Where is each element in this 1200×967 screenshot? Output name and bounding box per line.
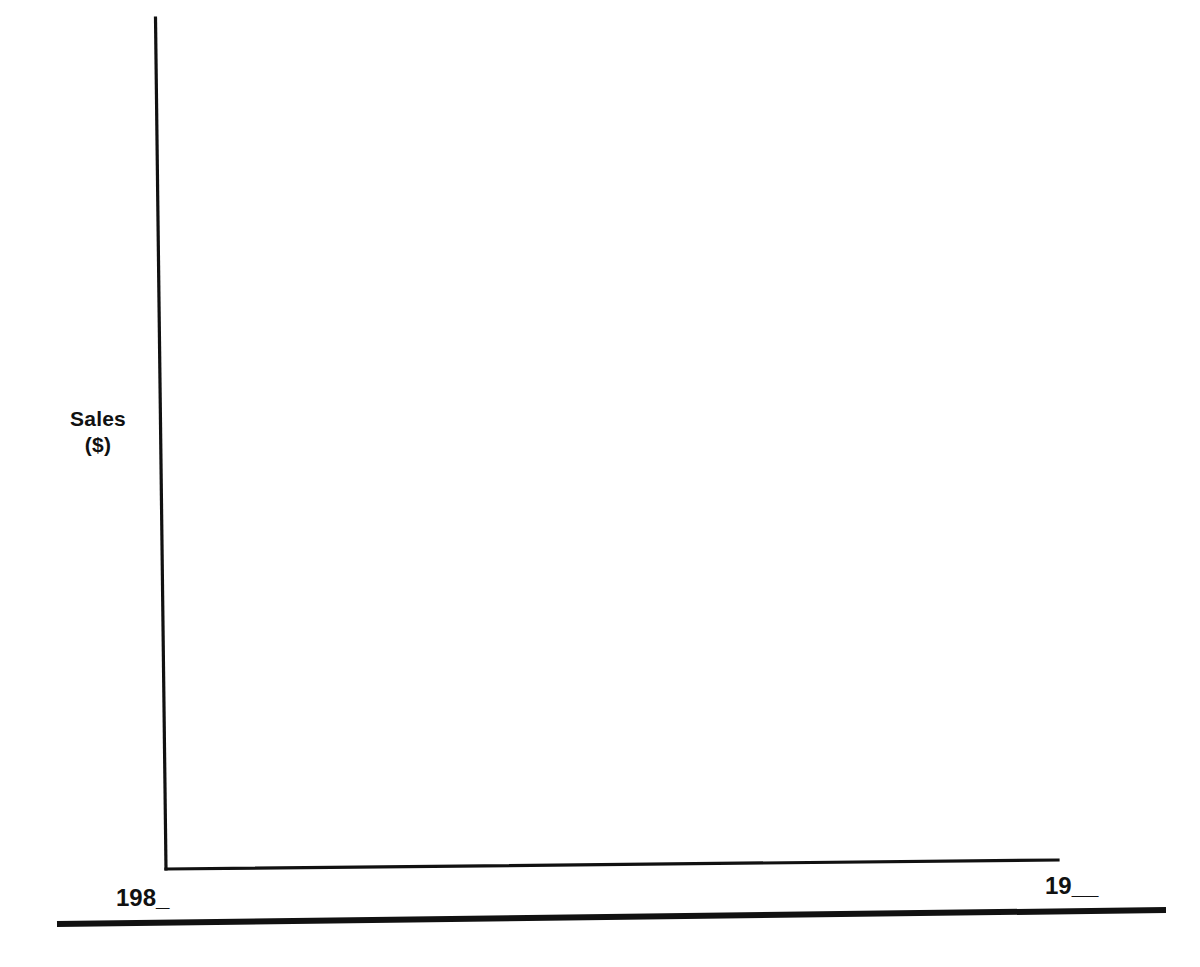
x-axis-line [166,860,1058,869]
y-axis-line [156,18,167,869]
y-axis-label-line-1: Sales [60,406,136,432]
x-tick-label-end: 19__ [1045,872,1098,900]
x-tick-label-start: 198_ [116,884,169,912]
chart-canvas [0,0,1200,967]
bottom-rule [57,910,1166,924]
y-axis-label: Sales ($) [60,406,136,458]
y-axis-label-line-2: ($) [60,432,136,458]
